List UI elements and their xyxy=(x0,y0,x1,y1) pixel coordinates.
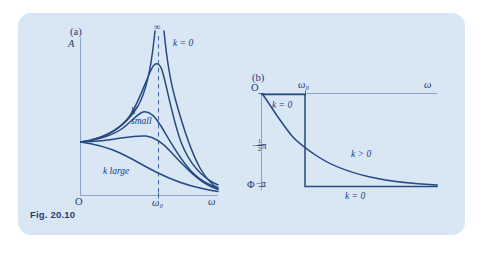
panel-b-x-axis-label: ω xyxy=(424,80,431,91)
panel-a-resonance-tick-label: ω₀ xyxy=(152,198,163,209)
panel-a-tag: (a) xyxy=(70,27,82,38)
panel-b-label-k-zero-upper: k = 0 xyxy=(272,101,292,111)
panel-a-label-k-large: k large xyxy=(103,167,129,177)
panel-b-y-axis-label: Φ xyxy=(247,180,255,191)
panel-a-y-axis-label: A xyxy=(68,39,74,50)
panel-a-origin-label: O xyxy=(75,197,83,208)
panel-b-resonance-tick-label: ω₀ xyxy=(298,80,309,91)
figure-root: (a) A O ∞ ω₀ ω k = 0 k small k large (b)… xyxy=(0,0,484,256)
panel-b-label-k-zero-lower: k = 0 xyxy=(345,192,365,202)
pi-glyph: π xyxy=(262,141,267,151)
panel-b-tick-half-pi: −12π xyxy=(252,138,266,152)
panel-a-label-k-small-line2: small xyxy=(131,116,152,126)
panel-b-tick-pi: −π xyxy=(256,180,266,190)
panel-a-label-k-small-line1: k xyxy=(131,106,152,116)
panel-a-label-k-zero: k = 0 xyxy=(173,39,193,49)
panel-b-origin-label: O xyxy=(251,83,259,94)
panel-a-infinity-label: ∞ xyxy=(154,23,160,32)
panel-a-x-axis-label: ω xyxy=(208,197,215,208)
omega-zero-glyph: ω₀ xyxy=(152,197,163,208)
panel-b-label-k-positive: k > 0 xyxy=(351,150,371,160)
panel-a-label-k-small: k small xyxy=(131,106,152,126)
figure-panel-background xyxy=(18,13,465,235)
figure-caption: Fig. 20.10 xyxy=(30,209,75,220)
